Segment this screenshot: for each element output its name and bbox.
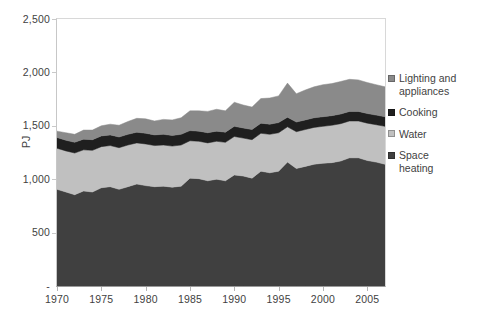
y-tick-label: 1,500: [4, 120, 50, 131]
plot-area: [56, 18, 386, 287]
legend-swatch-icon: [388, 75, 395, 82]
x-tick-mark: [279, 287, 280, 291]
area-series-group: [57, 19, 385, 286]
y-tick-label: 1,000: [4, 174, 50, 185]
x-tick-label: 1990: [214, 294, 254, 305]
y-tick-mark: [52, 179, 56, 180]
y-tick-label: 500: [4, 227, 50, 238]
x-axis: 19701975198019851990199520002005: [0, 290, 492, 310]
y-tick-label: 2,000: [4, 67, 50, 78]
y-tick-label: 2,500: [4, 14, 50, 25]
y-tick-mark: [52, 126, 56, 127]
x-tick-mark: [323, 287, 324, 291]
legend-item-lighting-and-appliances[interactable]: Lighting and appliances: [388, 72, 490, 97]
legend-item-space-heating[interactable]: Space heating: [388, 149, 490, 174]
x-tick-label: 1995: [259, 294, 299, 305]
legend-item-water[interactable]: Water: [388, 128, 490, 141]
x-tick-label: 1985: [170, 294, 210, 305]
legend-item-label: Lighting and appliances: [399, 72, 456, 97]
x-tick-label: 2000: [303, 294, 343, 305]
x-tick-mark: [146, 287, 147, 291]
y-axis-title: PJ: [20, 136, 32, 148]
legend-swatch-icon: [388, 152, 395, 159]
y-tick-mark: [52, 233, 56, 234]
legend-item-label: Cooking: [399, 106, 438, 119]
legend-swatch-icon: [388, 109, 395, 116]
x-tick-mark: [101, 287, 102, 291]
x-tick-label: 1980: [126, 294, 166, 305]
stacked-area-chart: -5001,0001,5002,0002,500 PJ 197019751980…: [0, 0, 492, 321]
x-tick-mark: [57, 287, 58, 291]
x-tick-label: 2005: [347, 294, 387, 305]
chart-legend: Lighting and appliancesCookingWaterSpace…: [388, 72, 490, 183]
x-tick-mark: [190, 287, 191, 291]
x-tick-mark: [367, 287, 368, 291]
y-axis: -5001,0001,5002,0002,500: [0, 0, 50, 321]
legend-item-label: Space heating: [399, 149, 433, 174]
y-tick-mark: [52, 19, 56, 20]
legend-item-label: Water: [399, 128, 427, 141]
legend-swatch-icon: [388, 130, 395, 137]
x-tick-mark: [234, 287, 235, 291]
legend-item-cooking[interactable]: Cooking: [388, 106, 490, 119]
y-tick-mark: [52, 72, 56, 73]
x-tick-label: 1970: [37, 294, 77, 305]
x-tick-label: 1975: [81, 294, 121, 305]
